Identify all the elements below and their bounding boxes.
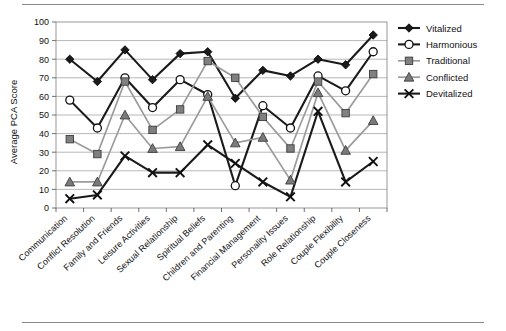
data-point-marker [287, 145, 294, 152]
data-point-marker [286, 175, 296, 184]
chart-figure: Average PCA Score 0102030405060708090100… [0, 0, 506, 331]
y-axis-tick-label: 70 [39, 73, 49, 83]
x-axis-category-label: Spiritual Beliefs [155, 213, 208, 263]
data-point-marker [259, 113, 266, 120]
data-point-marker [405, 24, 413, 32]
y-axis-tick-labels: 0102030405060708090100 [34, 17, 49, 213]
legend-item-conflicted: Conflicted [398, 72, 468, 83]
data-point-marker [342, 87, 350, 95]
data-point-marker [204, 57, 211, 64]
chart-legend: VitalizedHarmoniousTraditionalConflicted… [398, 23, 477, 100]
series-line [70, 35, 373, 98]
data-point-marker [66, 96, 74, 104]
bottom-divider-rule [22, 322, 484, 323]
data-point-marker [231, 182, 239, 190]
x-axis-tickmarks [56, 208, 387, 212]
y-axis-tick-label: 90 [39, 36, 49, 46]
line-chart: Average PCA Score 0102030405060708090100… [0, 0, 506, 331]
legend-label: Harmonious [426, 39, 477, 50]
data-point-marker [121, 78, 128, 85]
data-point-marker [342, 109, 349, 116]
y-axis-tick-label: 10 [39, 185, 49, 195]
data-point-marker [259, 102, 267, 110]
top-divider-rule [22, 4, 484, 5]
data-point-marker [120, 110, 130, 119]
legend-label: Devitalized [426, 88, 472, 99]
data-point-marker [341, 178, 350, 187]
data-point-marker [176, 76, 184, 84]
data-point-marker [149, 126, 156, 133]
data-point-marker [405, 57, 412, 64]
data-point-marker [93, 124, 101, 132]
y-axis-tick-label: 80 [39, 55, 49, 65]
data-point-marker [259, 178, 268, 187]
data-point-marker [369, 157, 378, 166]
data-point-marker [231, 159, 240, 168]
y-axis-tick-label: 40 [39, 129, 49, 139]
y-axis-title: Average PCA Score [8, 80, 19, 164]
x-axis-category-label: Communication [17, 213, 70, 263]
data-point-marker [314, 78, 321, 85]
data-point-marker [94, 150, 101, 157]
y-axis-tick-label: 50 [39, 110, 49, 120]
data-point-marker [203, 140, 212, 149]
data-point-marker [405, 40, 413, 48]
y-axis-tickmarks [52, 22, 56, 208]
legend-item-traditional: Traditional [398, 55, 470, 66]
y-axis-tick-label: 60 [39, 92, 49, 102]
y-axis-tick-label: 20 [39, 166, 49, 176]
series-line [70, 111, 373, 198]
data-point-marker [286, 124, 294, 132]
legend-item-harmonious: Harmonious [398, 39, 477, 50]
y-axis-tick-label: 100 [34, 17, 49, 27]
data-point-marker [66, 135, 73, 142]
data-point-marker [369, 48, 377, 56]
y-axis-tick-label: 0 [44, 203, 49, 213]
legend-item-devitalized: Devitalized [398, 88, 472, 99]
y-axis-title-label: Average PCA Score [8, 80, 19, 164]
data-point-marker [232, 74, 239, 81]
data-point-marker [121, 152, 130, 161]
legend-label: Traditional [426, 55, 470, 66]
y-axis-tick-label: 30 [39, 148, 49, 158]
data-point-marker [370, 70, 377, 77]
x-axis-category-labels: CommunicationConflict ResolutionFamily a… [17, 213, 373, 283]
data-point-marker [149, 104, 157, 112]
legend-label: Vitalized [426, 23, 462, 34]
data-point-marker [368, 116, 378, 125]
legend-item-vitalized: Vitalized [398, 23, 462, 34]
data-point-marker [176, 106, 183, 113]
series-lines [70, 35, 373, 199]
legend-label: Conflicted [426, 72, 468, 83]
